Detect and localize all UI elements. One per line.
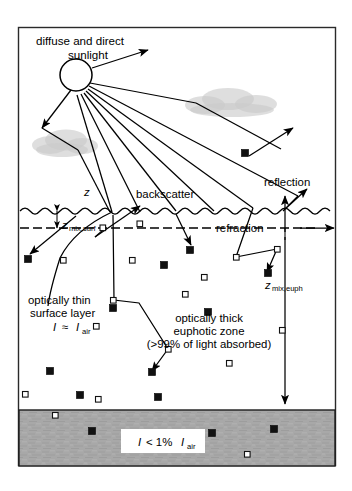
particle-open (227, 361, 233, 367)
svg-text:(>99% of light absorbed): (>99% of light absorbed) (147, 338, 272, 350)
reflection-label: reflection (264, 176, 310, 188)
particle-filled (187, 247, 194, 254)
svg-text:surface layer: surface layer (30, 307, 95, 319)
refraction-label: refraction (216, 222, 263, 234)
particle-open (94, 324, 100, 330)
backscatter-label: backscatter (136, 188, 194, 200)
sunlight-title-line1: diffuse and direct (36, 34, 125, 47)
particle-open (100, 225, 106, 231)
particle-filled (265, 270, 272, 277)
particle-filled (110, 305, 117, 312)
particle-filled (242, 150, 249, 157)
particle-open (202, 275, 208, 281)
light-attenuation-diagram: diffuse and direct sunlight z backscatte… (0, 0, 352, 491)
diagram-canvas: diffuse and direct sunlight z backscatte… (0, 0, 352, 491)
svg-text:optically thick: optically thick (175, 312, 243, 324)
particle-open (245, 452, 251, 458)
sunlight-title-line2: sunlight (68, 48, 109, 61)
particle-open (61, 258, 67, 264)
thin-layer-air-subscript: air (82, 327, 91, 336)
svg-text:z: z (264, 279, 271, 291)
particle-open (280, 328, 286, 334)
particle-filled (271, 426, 278, 433)
particle-filled (89, 428, 96, 435)
particle-filled (77, 392, 84, 399)
z-mix-euph-subscript: mix,euph (272, 284, 303, 293)
svg-text:euphotic zone: euphotic zone (174, 325, 245, 337)
particle-open (23, 392, 29, 398)
sun-icon (60, 59, 92, 91)
svg-text:≈: ≈ (62, 321, 68, 333)
particle-filled (161, 262, 168, 269)
particle-open (234, 255, 240, 261)
particle-filled (209, 430, 216, 437)
particle-filled (155, 394, 162, 401)
svg-text:< 1%: < 1% (146, 436, 172, 448)
particle-open (111, 298, 117, 304)
particle-open (96, 397, 102, 403)
particle-open (183, 292, 189, 298)
particle-open (137, 221, 143, 227)
z-mix-surf-subscript: mix,surf (69, 224, 96, 233)
particle-filled (149, 369, 156, 376)
svg-text:z: z (61, 219, 68, 231)
particle-open (53, 413, 59, 419)
particle-open (130, 258, 136, 264)
svg-text:optically thin: optically thin (28, 294, 91, 306)
depth-z-label: z (83, 186, 90, 198)
particle-filled (47, 368, 54, 375)
particle-open (275, 247, 281, 253)
particle-filled (25, 256, 32, 263)
sediment-air-subscript: air (187, 442, 196, 451)
